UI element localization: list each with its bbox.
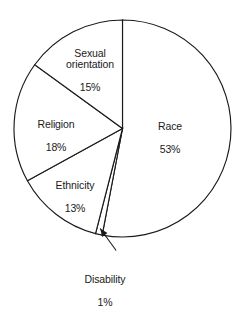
slice-label-name: Ethnicity (38, 180, 112, 192)
slice-label-religion: Religion 18% (20, 107, 92, 165)
slice-label-ethnicity: Ethnicity 13% (38, 168, 112, 226)
slice-label-value: 53% (139, 144, 201, 156)
slice-label-name: Sexual orientation (54, 48, 126, 71)
slice-label-value: 1% (57, 297, 153, 309)
slice-label-name: Disability (57, 274, 153, 286)
slice-label-race: Race 53% (139, 109, 201, 167)
slice-label-disability: Disability 1% (57, 262, 153, 310)
slice-label-value: 15% (54, 82, 126, 94)
slice-label-name: Religion (20, 119, 92, 131)
slice-label-sexual-orientation: Sexual orientation 15% (54, 36, 126, 106)
slice-label-name: Race (139, 121, 201, 133)
slice-label-value: 18% (20, 142, 92, 154)
slice-label-value: 13% (38, 203, 112, 215)
